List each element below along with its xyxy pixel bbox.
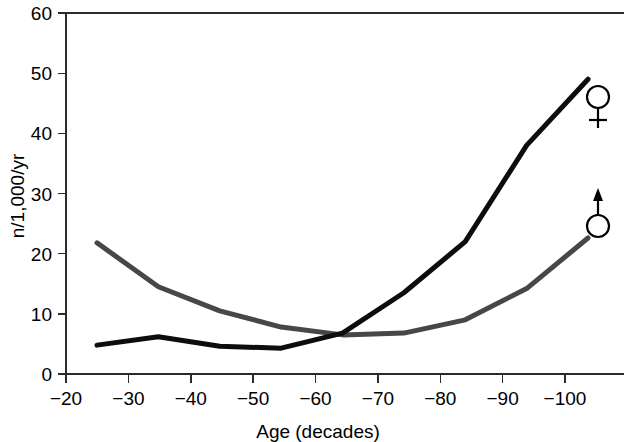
x-tick-label-40: −40	[175, 388, 207, 409]
x-tick-label-30: −30	[112, 388, 144, 409]
y-tick-label-30: 30	[31, 184, 52, 205]
x-axis-ticks: −20 −30 −40 −50 −60 −70 −80 −90 −100	[50, 374, 587, 409]
x-tick-label-70: −70	[362, 388, 394, 409]
y-axis-title: n/1,000/yr	[7, 153, 28, 238]
x-tick-label-20: −20	[50, 388, 82, 409]
female-symbol-circle	[587, 86, 609, 108]
series-line-female	[97, 79, 588, 348]
x-tick-label-80: −80	[424, 388, 456, 409]
chart-figure: 60 50 40 30 20 10 0 −20 −30 −40 −50 −60 …	[0, 0, 624, 442]
y-tick-label-50: 50	[31, 63, 52, 84]
y-tick-label-60: 60	[31, 3, 52, 24]
male-symbol-circle	[587, 215, 609, 237]
x-tick-label-100: −100	[544, 388, 587, 409]
x-tick-label-90: −90	[486, 388, 518, 409]
y-tick-label-10: 10	[31, 304, 52, 325]
male-symbol	[587, 188, 609, 237]
x-axis-title: Age (decades)	[256, 421, 380, 442]
female-symbol	[587, 86, 609, 128]
y-tick-label-20: 20	[31, 244, 52, 265]
y-axis-ticks: 60 50 40 30 20 10 0	[31, 3, 66, 385]
x-tick-label-60: −60	[299, 388, 331, 409]
x-tick-label-50: −50	[237, 388, 269, 409]
series-line-male	[97, 238, 588, 335]
male-symbol-arrowhead	[593, 188, 603, 201]
y-tick-label-0: 0	[41, 364, 52, 385]
y-tick-label-40: 40	[31, 123, 52, 144]
axes-group	[66, 13, 624, 374]
line-chart: 60 50 40 30 20 10 0 −20 −30 −40 −50 −60 …	[0, 0, 624, 442]
